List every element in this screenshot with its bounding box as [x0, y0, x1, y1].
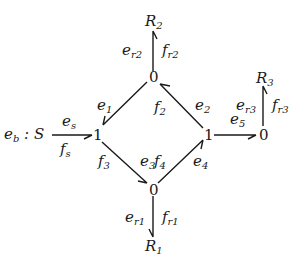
flow-label-fr2: fr2 [161, 41, 179, 60]
source-node: eb : S [4, 125, 44, 144]
effort-label-er1: er1 [125, 208, 145, 227]
effort-label-er2: er2 [122, 41, 142, 60]
flow-label-fs: fs [59, 140, 71, 159]
junction-0-top: 0 [149, 68, 159, 86]
bond-source-to-junction1-left [52, 135, 92, 139]
junction-1-right: 1 [204, 126, 214, 144]
effort-label-es: es [62, 112, 76, 131]
flow-label-f4: f4 [153, 152, 166, 171]
junction-1-left: 1 [93, 126, 103, 144]
effort-label-e3: e3 [140, 152, 155, 171]
bonds [52, 31, 267, 237]
resistor-R2: R2 [144, 12, 163, 31]
flow-label-f3: f3 [97, 152, 110, 171]
bond-graph-diagram: eb : S 1 0 1 0 0 R1 R2 R3 es fs e1 f2 e2… [0, 0, 306, 265]
flow-label-fr3: fr3 [271, 96, 289, 115]
effort-label-er3: er3 [236, 96, 256, 115]
effort-label-e1: e1 [97, 96, 112, 115]
resistor-R3: R3 [255, 69, 274, 88]
bond-bottom0-to-R1 [149, 196, 153, 237]
bond-top0-to-R2 [153, 31, 157, 71]
bond-junction1-right-to-right0 [214, 135, 256, 139]
flow-label-f2: f2 [153, 98, 166, 117]
flow-label-fr1: fr1 [161, 208, 179, 227]
junction-0-bottom: 0 [149, 181, 159, 199]
bond-right0-to-R3 [263, 86, 267, 126]
effort-label-e4: e4 [193, 152, 208, 171]
junction-0-right: 0 [259, 126, 269, 144]
resistor-R1: R1 [144, 237, 163, 256]
effort-label-e2: e2 [195, 96, 210, 115]
